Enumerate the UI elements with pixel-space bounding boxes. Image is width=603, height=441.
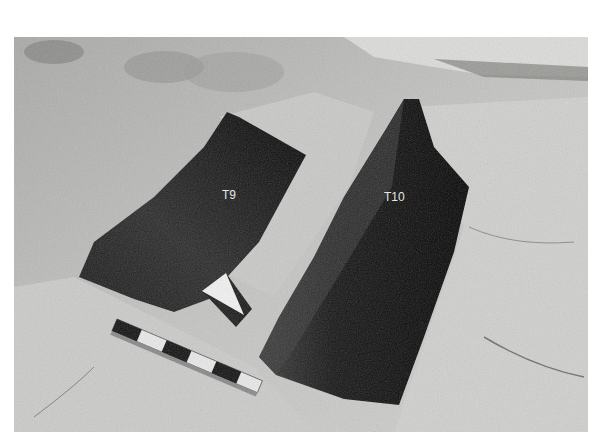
photo-grain (14, 37, 588, 432)
excavation-scene (14, 37, 588, 432)
shaft-label-t10: T10 (384, 190, 405, 204)
shaft-label-t9: T9 (222, 188, 236, 202)
excavation-photo: T9 T10 (14, 37, 588, 432)
